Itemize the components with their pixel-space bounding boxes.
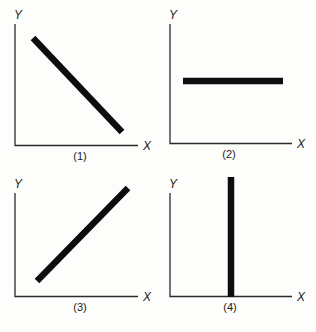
data-line-positive-slope	[37, 188, 128, 281]
panel-caption: (1)	[73, 150, 86, 162]
graph-4-svg: Y X (4)	[158, 166, 316, 332]
graph-3-svg: Y X (3)	[0, 166, 158, 332]
x-axis-label: X	[296, 290, 306, 304]
x-axis-label: X	[142, 290, 152, 304]
y-axis-label: Y	[14, 8, 23, 22]
graph-2-svg: Y X (2)	[158, 0, 316, 166]
graph-1-svg: Y X (1)	[0, 0, 158, 166]
x-axis-label: X	[142, 139, 152, 153]
y-axis-label: Y	[169, 8, 178, 22]
graph-panel-2: Y X (2)	[158, 0, 316, 166]
graph-panel-4: Y X (4)	[158, 166, 316, 332]
panel-caption: (2)	[222, 148, 235, 160]
y-axis-label: Y	[14, 177, 23, 191]
graph-panel-3: Y X (3)	[0, 166, 158, 332]
four-graphs-figure: Y X (1) Y X (2) Y X (3) Y X	[0, 0, 316, 332]
x-axis-label: X	[296, 137, 306, 151]
data-line-negative-slope	[33, 38, 122, 132]
graph-panel-1: Y X (1)	[0, 0, 158, 166]
panel-caption: (3)	[73, 301, 86, 313]
panel-caption: (4)	[223, 301, 236, 313]
y-axis-label: Y	[169, 177, 178, 191]
